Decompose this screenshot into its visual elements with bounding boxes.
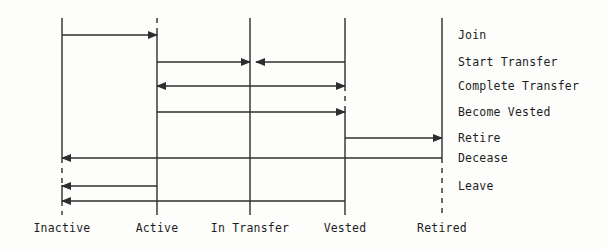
event-label-start_transfer: Start Transfer bbox=[458, 55, 558, 69]
diagram-canvas: InactiveActiveIn TransferVestedRetired J… bbox=[0, 0, 607, 250]
state-labels-layer: InactiveActiveIn TransferVestedRetired bbox=[34, 221, 467, 235]
event-labels-layer: JoinStart TransferComplete TransferBecom… bbox=[458, 28, 579, 193]
state-label-active: Active bbox=[136, 221, 179, 235]
state-label-retired: Retired bbox=[417, 221, 467, 235]
state-label-inactive: Inactive bbox=[34, 221, 91, 235]
state-transition-diagram: InactiveActiveIn TransferVestedRetired J… bbox=[0, 0, 607, 250]
event-label-become_vested: Become Vested bbox=[458, 105, 551, 119]
state-label-in_transfer: In Transfer bbox=[211, 221, 289, 235]
event-label-decease: Decease bbox=[458, 151, 508, 165]
state-label-vested: Vested bbox=[324, 221, 367, 235]
event-label-complete_transfer: Complete Transfer bbox=[458, 79, 579, 93]
transitions-layer bbox=[62, 35, 442, 201]
event-label-retire: Retire bbox=[458, 131, 501, 145]
event-label-join: Join bbox=[458, 28, 487, 42]
event-label-leave: Leave bbox=[458, 179, 494, 193]
